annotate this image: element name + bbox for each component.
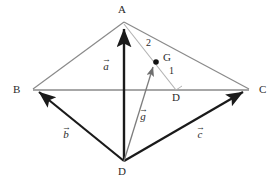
tetrahedron-vector-diagram: A B C D D G 2 1 → a → b → c → g xyxy=(0,0,278,182)
diagram-canvas xyxy=(0,0,278,182)
vector-letter-g: g xyxy=(139,111,147,122)
point-label-d-bottom: D xyxy=(118,166,126,177)
point-g-marker xyxy=(153,59,159,65)
edge-a-b xyxy=(33,22,124,89)
vector-letter-a: a xyxy=(102,61,110,72)
vector-b-shaft xyxy=(39,92,124,161)
ratio-label-1: 1 xyxy=(169,66,174,76)
vector-label-b: → b xyxy=(62,125,70,140)
point-label-d-inner: D xyxy=(172,92,180,103)
vector-label-a: → a xyxy=(102,57,110,72)
point-label-g: G xyxy=(163,52,171,63)
vector-group xyxy=(39,29,243,161)
vector-label-c: → c xyxy=(196,125,204,140)
vector-label-g: → g xyxy=(139,107,147,122)
point-label-c: C xyxy=(259,84,266,95)
point-label-a: A xyxy=(118,4,126,15)
point-label-b: B xyxy=(13,84,20,95)
edge-group-frame xyxy=(33,22,249,90)
ratio-label-2: 2 xyxy=(146,38,151,48)
vector-letter-b: b xyxy=(62,129,70,140)
edge-a-c xyxy=(124,22,249,89)
